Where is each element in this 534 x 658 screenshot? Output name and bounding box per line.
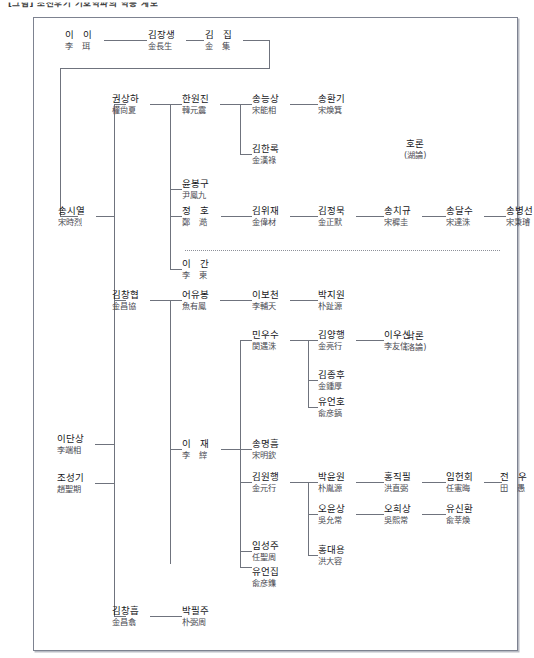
node-han-wonjin[interactable]: 한원진 韓元震 <box>182 94 210 114</box>
node-kim-jangsaeng[interactable]: 김장생 金長生 <box>148 30 176 50</box>
connector-kim-jip-to-song-siyeol-rail <box>60 68 270 69</box>
node-hong-jikpil[interactable]: 홍직필 洪直弼 <box>384 472 412 492</box>
node-korean: 김정묵 <box>318 206 346 216</box>
connector-to-eo-yubong <box>170 300 182 301</box>
node-song-siyeol[interactable]: 송시열 宋時烈 <box>58 206 86 226</box>
node-kim-wijae[interactable]: 김위재 金偉材 <box>252 206 280 226</box>
node-kim-jip[interactable]: 김 집 金 集 <box>205 30 236 50</box>
connector-to-im-seongju <box>240 551 252 552</box>
node-korean: 송치규 <box>384 206 412 216</box>
node-hanja: 宋明欽 <box>252 451 280 459</box>
node-jeon-u[interactable]: 전 우田 愚 <box>500 472 531 492</box>
node-hanja: 兪彦鏶 <box>252 579 280 587</box>
node-eo-yubong[interactable]: 어유봉 魚有鳳 <box>182 290 210 310</box>
node-yi-dansang[interactable]: 이단상 李端相 <box>57 434 85 454</box>
connector-to-kim-hannok <box>240 154 252 155</box>
node-song-neungsang[interactable]: 송능상 宋能相 <box>252 94 280 114</box>
node-hanja: 金亮行 <box>318 342 346 350</box>
node-jeong-ho[interactable]: 정 호 鄭 澔 <box>182 206 213 226</box>
node-jo-seonggi[interactable]: 조성기 趙聖期 <box>57 473 85 493</box>
connector-song-neungsang-to-song-hwangi <box>290 104 318 105</box>
connector-to-kim-yanghaeng <box>308 340 318 341</box>
node-hanja: 金正默 <box>318 218 346 226</box>
node-yun-bonggu[interactable]: 윤봉구 尹鳳九 <box>182 179 210 199</box>
connector-kim-jangsaeng-to-kim-jip <box>186 40 204 41</box>
node-hanja: 洪大容 <box>318 557 346 565</box>
connector-o-yunsang-to-o-huisang <box>356 514 384 515</box>
node-im-seongju[interactable]: 임성주 任聖周 <box>252 541 280 561</box>
node-hanja: 李端相 <box>57 446 85 454</box>
node-korean: 김창흡 <box>112 606 140 616</box>
node-yi-gan[interactable]: 이 간 李 柬 <box>182 259 213 279</box>
node-korean: 전 우 <box>500 472 531 482</box>
node-kim-changhyeop[interactable]: 김창협 金昌協 <box>112 290 140 310</box>
node-korean: 어유봉 <box>182 290 210 300</box>
node-hanja: 金昌協 <box>112 302 140 310</box>
node-hanja: 宋穉圭 <box>384 218 412 226</box>
node-korean: 김한록 <box>252 144 280 154</box>
node-hanja: 宋達洙 <box>446 218 474 226</box>
node-yi-jae[interactable]: 이 재 李 縡 <box>182 439 213 459</box>
node-kim-wonhaeng[interactable]: 김원행 金元行 <box>252 472 280 492</box>
node-song-byeongseon[interactable]: 송병선宋秉璿 <box>506 206 534 226</box>
node-korean: 한원진 <box>182 94 210 104</box>
node-hanja: 李 珥 <box>65 42 96 50</box>
node-gwon-sangha[interactable]: 권상하 權尙夏 <box>112 94 140 114</box>
node-park-pilju[interactable]: 박필주 朴弼周 <box>182 606 210 626</box>
node-yi-bocheon[interactable]: 이보천 李輔天 <box>252 290 280 310</box>
node-korean: 송달수 <box>446 206 474 216</box>
node-korean: 오희상 <box>384 504 412 514</box>
connector-gwon-sangha-out <box>150 104 170 105</box>
node-hanja: 金 集 <box>205 42 236 50</box>
node-hanja: 韓元震 <box>182 106 210 114</box>
node-hong-daeyong[interactable]: 홍대용 洪大容 <box>318 545 346 565</box>
node-im-heonhoe[interactable]: 임헌회 任憲晦 <box>446 472 474 492</box>
bus-kim-wonhaeng-disciples <box>308 482 309 555</box>
connector-hong-jikpil-to-im-heonhoe <box>422 482 446 483</box>
node-song-myeongheum[interactable]: 송명흠 宋明欽 <box>252 439 280 459</box>
connector-to-yi-gan <box>170 269 182 270</box>
node-hanja: 金長生 <box>148 42 176 50</box>
node-hanja: 李輔天 <box>252 302 280 310</box>
node-hanja: 趙聖期 <box>57 485 85 493</box>
node-song-hwangi[interactable]: 송환기 宋煥箕 <box>318 94 346 114</box>
connector-song-siyeol-out <box>96 216 114 217</box>
connector-to-han-wonjin <box>170 104 182 105</box>
node-hanja: 尹鳳九 <box>182 191 210 199</box>
node-kim-jeongmuk[interactable]: 김정묵 金正默 <box>318 206 346 226</box>
node-park-jiwon[interactable]: 박지원 朴趾源 <box>318 290 346 310</box>
node-hanja: 田 愚 <box>500 484 531 492</box>
node-yu-eonjip[interactable]: 유언집 兪彦鏶 <box>252 567 280 587</box>
connector-kim-wijae-to-kim-jeongmuk <box>290 216 318 217</box>
node-kim-hannok[interactable]: 김한록 金漢祿 <box>252 144 280 164</box>
node-kim-changheup[interactable]: 김창흡 金昌翕 <box>112 606 140 626</box>
connector-kim-wonhaeng-out <box>290 482 308 483</box>
node-korean: 이보천 <box>252 290 280 300</box>
node-hanja: 李 縡 <box>182 451 213 459</box>
node-hanja: 宋秉璿 <box>506 218 534 226</box>
connector-park-yunwon-to-hong-jikpil <box>356 482 384 483</box>
node-hanja: 宋時烈 <box>58 218 86 226</box>
node-yu-sinhwan[interactable]: 유신환 兪莘煥 <box>446 504 474 524</box>
connector-to-kim-wonhaeng <box>240 482 252 483</box>
node-hanja: 朴胤源 <box>318 484 346 492</box>
node-min-usu[interactable]: 민우수 閔遇洙 <box>252 330 280 350</box>
node-hanja: 金漢祿 <box>252 156 280 164</box>
node-park-yunwon[interactable]: 박윤원 朴胤源 <box>318 472 346 492</box>
node-o-yunsang[interactable]: 오윤상 吳允常 <box>318 504 346 524</box>
label-horon: 호론 (湖論) <box>404 138 426 160</box>
node-o-huisang[interactable]: 오희상 吳熙常 <box>384 504 412 524</box>
node-yi-i[interactable]: 이 이 李 珥 <box>65 30 96 50</box>
node-song-dalsu[interactable]: 송달수 宋達洙 <box>446 206 474 226</box>
connector-to-song-neungsang <box>240 104 252 105</box>
connector-jo-seonggi-out <box>95 483 114 484</box>
node-hanja: 權尙夏 <box>112 106 140 114</box>
connector-kim-changhyeop-out <box>150 300 170 301</box>
connector-to-yi-jae <box>170 449 182 450</box>
node-kim-yanghaeng[interactable]: 김양행 金亮行 <box>318 330 346 350</box>
bus-kim-changhyeop-disciples <box>170 300 171 564</box>
node-kim-jonghu[interactable]: 김종후 金鍾厚 <box>318 370 346 390</box>
node-korean: 박윤원 <box>318 472 346 482</box>
node-song-chigyu[interactable]: 송치규 宋穉圭 <box>384 206 412 226</box>
node-yu-eonho[interactable]: 유언호 兪彦鎬 <box>318 397 346 417</box>
